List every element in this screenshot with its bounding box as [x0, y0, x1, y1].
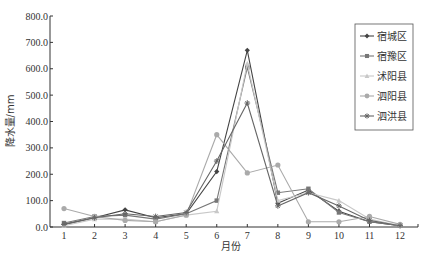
y-tick-label: 800.0	[26, 11, 49, 22]
x-tick-label: 2	[92, 230, 97, 241]
legend-marker-icon	[365, 94, 370, 99]
legend-label: 泗阳县	[377, 91, 407, 102]
legend: 宿城区宿豫区沭阳县泗阳县泗洪县	[355, 24, 413, 130]
series-5	[61, 100, 403, 228]
x-tick-label: 10	[334, 230, 344, 241]
series-line	[64, 63, 400, 225]
legend-label: 沭阳县	[377, 71, 407, 82]
y-tick-label: 700.0	[26, 37, 49, 48]
y-tick-label: 500.0	[26, 90, 49, 101]
series-line	[64, 67, 400, 225]
legend-label: 宿城区	[377, 30, 407, 42]
y-tick-label: 0.0	[36, 222, 49, 233]
series-2	[62, 65, 402, 228]
series-3	[61, 61, 402, 228]
x-tick-label: 5	[184, 230, 189, 241]
legend-label: 泗洪县	[377, 111, 407, 122]
x-axis-title: 月份	[221, 241, 241, 252]
x-tick-label: 8	[275, 230, 280, 241]
series-markers	[61, 61, 402, 228]
x-tick-label: 11	[365, 230, 375, 241]
x-tick-label: 3	[123, 230, 128, 241]
x-tick-label: 4	[153, 230, 158, 241]
y-tick-label: 100.0	[26, 195, 49, 206]
x-tick-label: 1	[62, 230, 67, 241]
x-tick-label: 9	[306, 230, 311, 241]
y-axis-title: 降水量/mm	[4, 95, 16, 148]
legend-marker-icon	[365, 54, 369, 58]
series-layer	[61, 48, 403, 229]
x-tick-label: 12	[395, 230, 405, 241]
x-tick-label: 7	[245, 230, 250, 241]
series-markers	[62, 65, 402, 228]
rainfall-line-chart: 0.0100.0200.0300.0400.0500.0600.0700.080…	[0, 0, 427, 258]
y-tick-label: 300.0	[26, 142, 49, 153]
y-tick-label: 200.0	[26, 169, 49, 180]
series-markers	[61, 100, 403, 228]
x-tick-label: 6	[214, 230, 219, 241]
y-tick-label: 600.0	[26, 63, 49, 74]
y-tick-label: 400.0	[26, 116, 49, 127]
legend-label: 宿豫区	[377, 50, 407, 62]
